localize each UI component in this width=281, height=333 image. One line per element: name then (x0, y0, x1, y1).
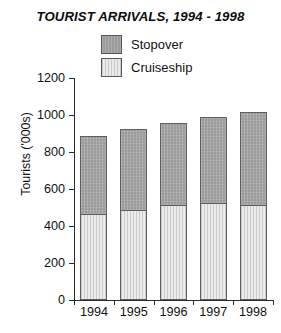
bar-1998[interactable] (240, 112, 267, 300)
x-tick-4 (233, 300, 234, 305)
x-tick-1 (114, 300, 115, 305)
y-tick-1200 (69, 78, 75, 79)
x-tick-2 (154, 300, 155, 305)
chart-legend: Stopover Cruiseship (101, 35, 192, 77)
y-tick-label-0: 0 (11, 294, 65, 307)
y-tick-800 (69, 152, 75, 153)
y-tick-label-200: 200 (11, 257, 65, 270)
cruiseship-swatch-icon (101, 58, 122, 77)
bar-segment-cruiseship-1997[interactable] (200, 204, 227, 300)
y-tick-label-800: 800 (11, 146, 65, 159)
y-tick-1000 (69, 115, 75, 116)
x-tick-label-1994: 1994 (72, 306, 116, 319)
bar-segment-stopover-1998[interactable] (240, 112, 267, 205)
bar-1994[interactable] (80, 136, 107, 300)
bar-1997[interactable] (200, 117, 227, 300)
legend-label-stopover: Stopover (131, 38, 183, 51)
x-axis-line (74, 300, 273, 301)
y-tick-200 (69, 263, 75, 264)
stopover-swatch-icon (101, 35, 122, 54)
x-tick-label-1998: 1998 (231, 306, 275, 319)
y-tick-600 (69, 189, 75, 190)
bar-segment-stopover-1997[interactable] (200, 117, 227, 204)
bar-1996[interactable] (160, 123, 187, 300)
bar-segment-stopover-1994[interactable] (80, 136, 107, 215)
bar-1995[interactable] (120, 129, 147, 300)
tourist-arrivals-stacked-bar-chart: TOURIST ARRIVALS, 1994 - 1998 Stopover C… (0, 0, 281, 333)
chart-title: TOURIST ARRIVALS, 1994 - 1998 (0, 9, 281, 24)
y-tick-400 (69, 226, 75, 227)
x-tick-label-1996: 1996 (152, 306, 196, 319)
y-tick-label-1000: 1000 (11, 109, 65, 122)
x-tick-label-1997: 1997 (191, 306, 235, 319)
bar-segment-cruiseship-1995[interactable] (120, 211, 147, 300)
bar-segment-cruiseship-1996[interactable] (160, 206, 187, 300)
plot-area: 020040060080010001200 199419951996199719… (74, 78, 273, 300)
bar-segment-cruiseship-1998[interactable] (240, 206, 267, 300)
x-tick-label-1995: 1995 (112, 306, 156, 319)
x-tick-0 (74, 300, 75, 305)
y-tick-label-600: 600 (11, 183, 65, 196)
bar-segment-cruiseship-1994[interactable] (80, 215, 107, 300)
y-tick-label-400: 400 (11, 220, 65, 233)
bar-segment-stopover-1996[interactable] (160, 123, 187, 205)
x-tick-3 (193, 300, 194, 305)
legend-label-cruiseship: Cruiseship (131, 61, 192, 74)
legend-item-cruiseship: Cruiseship (101, 58, 192, 77)
y-tick-label-1200: 1200 (11, 72, 65, 85)
x-tick-end (273, 300, 274, 305)
bar-segment-stopover-1995[interactable] (120, 129, 147, 211)
legend-item-stopover: Stopover (101, 35, 192, 54)
